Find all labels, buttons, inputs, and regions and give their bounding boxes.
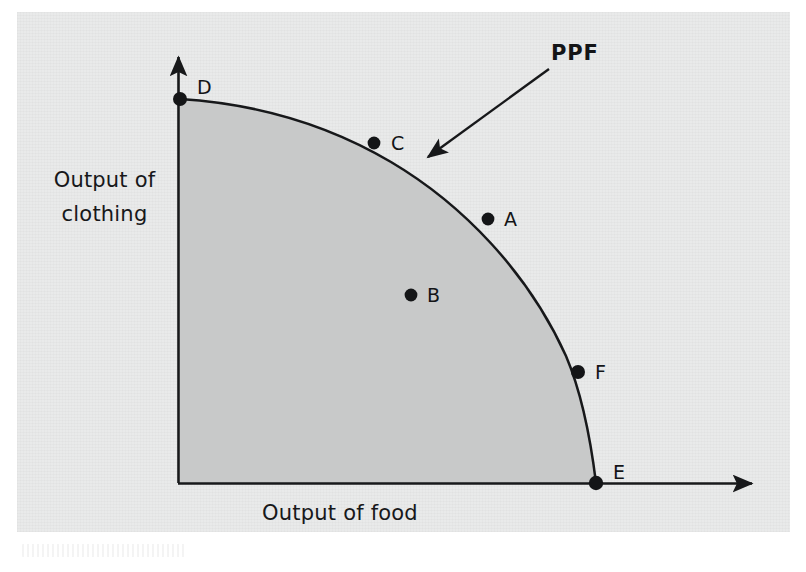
point-label-b: B [427, 284, 440, 306]
y-axis-label: Output of clothing [38, 163, 171, 231]
point-marker-A [482, 213, 495, 226]
point-marker-C [368, 137, 381, 150]
x-axis-label: Output of food [242, 501, 438, 525]
point-label-a: A [504, 208, 517, 230]
y-axis-label-line1: Output of [38, 163, 171, 197]
point-marker-E [589, 476, 603, 490]
ppf-plot [0, 0, 806, 572]
ppf-callout-arrow [428, 69, 549, 157]
point-marker-D [173, 92, 187, 106]
point-marker-F [571, 365, 585, 379]
ppf-annotation-label: PPF [551, 41, 599, 65]
point-label-c: C [391, 132, 404, 154]
feasible-set-shading [180, 99, 596, 483]
point-label-f: F [595, 361, 606, 383]
scan-caption-artifact [22, 544, 187, 557]
point-label-e: E [613, 461, 625, 483]
point-label-d: D [197, 76, 212, 98]
point-marker-B [405, 289, 418, 302]
ppf-figure: Output of clothing Output of food PPF DC… [0, 0, 806, 572]
y-axis-label-line2: clothing [38, 197, 171, 231]
